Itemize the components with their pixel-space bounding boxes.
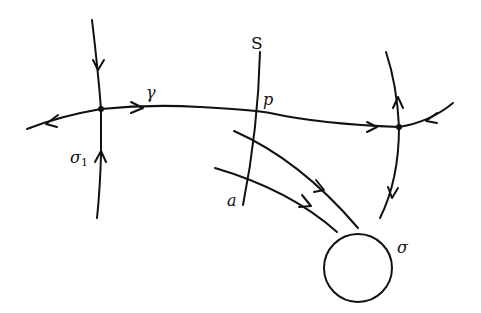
attractor-circle (324, 234, 392, 302)
left-saddle-stable-manifold (92, 20, 101, 218)
label-p: p (263, 90, 273, 109)
phase-portrait-diagram: S p a γ σ1 σ (0, 0, 481, 313)
arrow-down-icon (93, 60, 104, 70)
arrow-flow-icon (314, 180, 324, 192)
arrow-right-icon (367, 122, 377, 132)
gamma-orbit (27, 106, 399, 129)
label-sigma1: σ1 (70, 148, 88, 169)
right-saddle-point (396, 124, 402, 130)
label-gamma: γ (146, 83, 156, 102)
label-a: a (227, 191, 237, 210)
label-s: S (251, 33, 263, 53)
label-sigma: σ (397, 238, 409, 257)
right-saddle-stable-branch (399, 103, 453, 127)
left-saddle-point (98, 106, 104, 112)
